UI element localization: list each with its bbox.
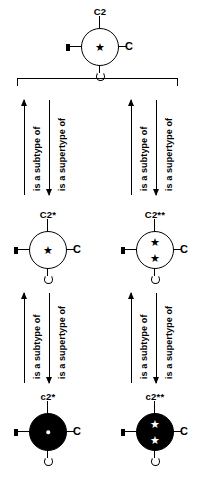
- port-right-socket-c2-star: C: [73, 244, 81, 255]
- node-c2-star-label: C2*: [40, 209, 56, 220]
- port-right-socket-c2-lower-star: C: [73, 426, 81, 437]
- arrow-head-up: [21, 292, 27, 299]
- port-bottom-loop-c2-starstar: [151, 275, 160, 284]
- port-right-socket-c2: C: [125, 41, 133, 52]
- node-c2-lower-star-label: c2*: [41, 391, 56, 402]
- port-left-cap-c2-lower-star: [14, 429, 18, 436]
- arrow-shaft: [49, 100, 50, 195]
- arrow-shaft: [49, 293, 50, 383]
- node-c2-starstar-label: C2**: [145, 209, 165, 220]
- grouping-bracket: [17, 78, 178, 86]
- arrow-shaft: [156, 100, 157, 195]
- arrow-label-subtype-left-lower: is a subtype of: [32, 314, 42, 379]
- diagram-canvas: C2 C ★ is a subtype of is a supertype of: [0, 0, 203, 478]
- port-right-socket-c2-lower-starstar: C: [180, 426, 188, 437]
- port-left-cap-c2-starstar: [121, 247, 125, 254]
- node-c2-lower-starstar-label: c2**: [146, 391, 165, 402]
- arrow-shaft: [131, 293, 132, 383]
- node-c2-star-1: ★: [95, 42, 105, 53]
- port-bottom-loop-c2-star: [44, 275, 53, 284]
- port-left-cap-c2-star: [14, 247, 18, 254]
- port-bottom-loop-c2-lower-starstar: [151, 457, 160, 466]
- bracket-tick-right: [177, 78, 178, 86]
- arrow-label-subtype-right-upper: is a subtype of: [139, 126, 149, 191]
- node-c2-star-star-1: ★: [43, 245, 53, 256]
- arrow-head-up: [21, 99, 27, 106]
- arrow-head-down: [46, 377, 52, 384]
- node-c2-lower-starstar-star-2: ★: [150, 435, 160, 446]
- arrow-shaft: [24, 293, 25, 383]
- node-c2-lower-starstar-star-1: ★: [150, 419, 160, 430]
- arrow-head-down: [153, 377, 159, 384]
- bracket-tick-left: [17, 78, 18, 86]
- arrow-head-up: [128, 99, 134, 106]
- arrow-label-supertype-left-upper: is a supertype of: [57, 118, 67, 191]
- node-c2-starstar-star-2: ★: [150, 253, 160, 264]
- port-bottom-loop-c2-lower-star: [44, 457, 53, 466]
- arrow-head-down: [153, 189, 159, 196]
- arrow-head-up: [128, 292, 134, 299]
- port-left-cap-c2: [66, 44, 70, 51]
- port-right-socket-c2-starstar: C: [180, 244, 188, 255]
- arrow-shaft: [131, 100, 132, 195]
- arrow-head-down: [46, 189, 52, 196]
- arrow-label-supertype-left-lower: is a supertype of: [57, 306, 67, 379]
- arrow-label-supertype-right-lower: is a supertype of: [164, 306, 174, 379]
- node-c2-label: C2: [94, 6, 107, 17]
- arrow-shaft: [156, 293, 157, 383]
- bracket-bar: [17, 78, 178, 79]
- arrow-label-subtype-right-lower: is a subtype of: [139, 314, 149, 379]
- node-c2-lower-star-center-dot: [46, 430, 50, 434]
- node-c2-starstar-star-1: ★: [150, 237, 160, 248]
- arrow-label-subtype-left-upper: is a subtype of: [32, 126, 42, 191]
- arrow-shaft: [24, 100, 25, 195]
- arrow-label-supertype-right-upper: is a supertype of: [164, 118, 174, 191]
- port-left-cap-c2-lower-starstar: [121, 429, 125, 436]
